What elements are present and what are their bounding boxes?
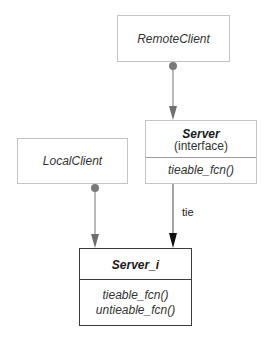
arrowhead-icon — [169, 106, 177, 120]
edge-label-tie: tie — [182, 206, 194, 218]
node-server-i[interactable]: Server_i tieable_fcn() untieable_fcn() — [79, 248, 192, 326]
class-name: Server_i — [112, 259, 159, 271]
node-server-interface[interactable]: Server (interface) tieable_fcn() — [145, 120, 257, 184]
class-operations: tieable_fcn() — [146, 158, 256, 183]
class-header: Server (interface) — [146, 121, 256, 158]
operation: tieable_fcn() — [102, 288, 168, 303]
class-operations: tieable_fcn() untieable_fcn() — [80, 280, 191, 325]
edge-remoteclient-to-server — [169, 62, 177, 120]
node-local-client[interactable]: LocalClient — [17, 138, 128, 184]
dot-icon — [91, 184, 99, 192]
arrowhead-icon — [91, 234, 99, 248]
class-header: Server_i — [80, 249, 191, 280]
operation: tieable_fcn() — [168, 163, 234, 178]
class-stereotype: (interface) — [174, 140, 228, 152]
edge-localclient-to-server-i — [91, 184, 99, 248]
arrowhead-icon — [169, 233, 177, 248]
node-name: RemoteClient — [137, 32, 210, 46]
class-name: Server — [182, 128, 219, 140]
node-name: LocalClient — [43, 154, 102, 168]
dot-icon — [169, 62, 177, 70]
node-remote-client[interactable]: RemoteClient — [117, 15, 230, 62]
edge-server-to-server-i-tie — [169, 184, 177, 248]
operation: untieable_fcn() — [96, 303, 175, 318]
